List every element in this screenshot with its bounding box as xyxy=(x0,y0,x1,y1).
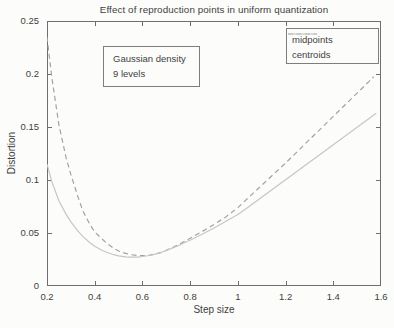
legend-label-centroids: centroids xyxy=(292,49,331,60)
y-tick-label: 0.05 xyxy=(0,227,43,238)
x-tick-label: 1 xyxy=(235,291,240,302)
y-tick-label: 0.25 xyxy=(0,15,43,26)
y-tick-label: 0 xyxy=(0,280,43,291)
plot-area: Gaussian density 9 levels midpoints cent… xyxy=(47,21,381,286)
centroids-curve xyxy=(47,113,376,257)
y-tick-label: 0.15 xyxy=(0,121,43,132)
x-tick-label: 0.6 xyxy=(136,291,149,302)
chart-title: Effect of reproduction points in uniform… xyxy=(100,4,328,15)
y-tick-label: 0.1 xyxy=(0,174,43,185)
annotation-line-1: Gaussian density xyxy=(113,51,199,66)
centroids-solid-line-sample xyxy=(287,29,318,39)
x-tick-label: 0.2 xyxy=(40,291,53,302)
legend: midpoints centroids xyxy=(286,28,379,64)
x-tick-label: 1.6 xyxy=(374,291,387,302)
x-tick-label: 1.4 xyxy=(327,291,340,302)
midpoints-curve xyxy=(47,37,374,256)
annotation-box: Gaussian density 9 levels xyxy=(103,46,200,87)
figure: Effect of reproduction points in uniform… xyxy=(0,0,394,328)
x-axis-label: Step size xyxy=(193,304,234,315)
x-tick-label: 1.2 xyxy=(279,291,292,302)
x-tick-label: 0.8 xyxy=(184,291,197,302)
legend-item-centroids: centroids xyxy=(292,47,378,62)
y-axis-label: Distortion xyxy=(6,132,17,174)
y-tick-label: 0.2 xyxy=(0,68,43,79)
x-tick-label: 0.4 xyxy=(88,291,101,302)
annotation-line-2: 9 levels xyxy=(113,66,199,81)
